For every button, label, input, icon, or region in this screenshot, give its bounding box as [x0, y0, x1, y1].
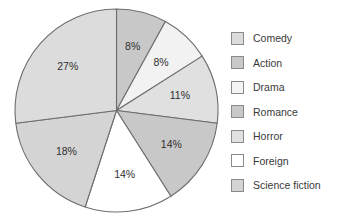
legend-item-label: Foreign	[253, 156, 289, 167]
pie-slice-data-label: 18%	[56, 145, 77, 157]
legend-swatch-icon	[231, 81, 244, 94]
pie-slice-data-label: 11%	[170, 89, 190, 101]
pie-plot-area: 8%8%11%14%14%18%27%	[0, 0, 228, 221]
legend-item-label: Action	[253, 58, 282, 69]
legend-item-label: Romance	[253, 107, 298, 118]
legend-swatch-icon	[231, 56, 244, 69]
pie-slice-data-label: 8%	[153, 56, 168, 68]
pie-slice-data-label: 14%	[161, 138, 182, 150]
legend-item[interactable]: Science fiction	[231, 173, 346, 198]
legend-item-label: Science fiction	[253, 180, 321, 191]
pie-chart-figure: 8%8%11%14%14%18%27% ComedyActionDramaRom…	[0, 0, 346, 221]
legend-swatch-icon	[231, 154, 244, 167]
legend-item-label: Horror	[253, 131, 283, 142]
legend-item[interactable]: Foreign	[231, 149, 346, 174]
legend-item[interactable]: Action	[231, 51, 346, 76]
pie-slice-group	[15, 9, 218, 212]
chart-legend: ComedyActionDramaRomanceHorrorForeignSci…	[231, 26, 346, 198]
pie-slice-data-label: 8%	[125, 40, 140, 52]
legend-item[interactable]: Comedy	[231, 26, 346, 51]
legend-item[interactable]: Horror	[231, 124, 346, 149]
legend-swatch-icon	[231, 32, 244, 45]
legend-item-label: Comedy	[253, 33, 292, 44]
pie-slice-data-label: 14%	[114, 168, 135, 180]
legend-item[interactable]: Romance	[231, 100, 346, 125]
legend-swatch-icon	[231, 179, 244, 192]
pie-chart-svg: 8%8%11%14%14%18%27%	[0, 0, 228, 221]
pie-slice-data-label: 27%	[57, 60, 78, 72]
legend-swatch-icon	[231, 105, 244, 118]
legend-item[interactable]: Drama	[231, 75, 346, 100]
legend-swatch-icon	[231, 130, 244, 143]
legend-item-label: Drama	[253, 82, 285, 93]
